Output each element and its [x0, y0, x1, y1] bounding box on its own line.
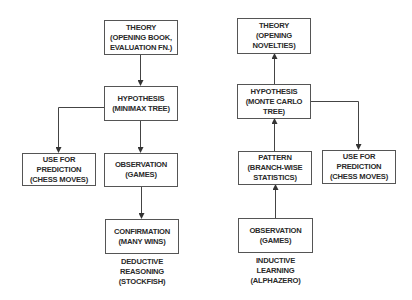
- inductive-hypothesis-box: HYPOTHESIS (MONTE CARLO TREE): [237, 84, 311, 119]
- inductive-theory-box: THEORY (OPENING NOVELTIES): [237, 18, 311, 54]
- inductive-hypothesis-label: HYPOTHESIS (MONTE CARLO TREE): [246, 87, 303, 117]
- inductive-prediction-label: USE FOR PREDICTION (CHESS MOVES): [330, 152, 388, 182]
- deductive-observation-box: OBSERVATION (GAMES): [104, 153, 178, 187]
- deductive-theory-box: THEORY (OPENING BOOK, EVALUATION FN.): [104, 20, 178, 55]
- deductive-prediction-box: USE FOR PREDICTION (CHESS MOVES): [22, 153, 96, 186]
- inductive-pattern-label: PATTERN (BRANCH-WISE STATISTICS): [248, 153, 303, 183]
- deductive-hypothesis-label: HYPOTHESIS (MINIMAX TREE): [112, 94, 170, 114]
- deductive-caption: DEDUCTIVE REASONING (STOCKFISH): [105, 257, 179, 287]
- inductive-theory-label: THEORY (OPENING NOVELTIES): [252, 21, 295, 51]
- deductive-hypothesis-box: HYPOTHESIS (MINIMAX TREE): [104, 86, 178, 121]
- inductive-observation-box: OBSERVATION (GAMES): [238, 218, 313, 253]
- deductive-confirmation-label: CONFIRMATION (MANY WINS): [114, 227, 170, 247]
- deductive-confirmation-box: CONFIRMATION (MANY WINS): [105, 219, 179, 254]
- inductive-observation-label: OBSERVATION (GAMES): [249, 226, 301, 246]
- inductive-prediction-box: USE FOR PREDICTION (CHESS MOVES): [322, 150, 396, 184]
- deductive-observation-label: OBSERVATION (GAMES): [115, 160, 167, 180]
- inductive-caption: INDUCTIVE LEARNING (ALPHAZERO): [238, 256, 313, 286]
- deductive-prediction-label: USE FOR PREDICTION (CHESS MOVES): [30, 155, 88, 185]
- inductive-pattern-box: PATTERN (BRANCH-WISE STATISTICS): [238, 151, 312, 185]
- deductive-theory-label: THEORY (OPENING BOOK, EVALUATION FN.): [110, 23, 172, 53]
